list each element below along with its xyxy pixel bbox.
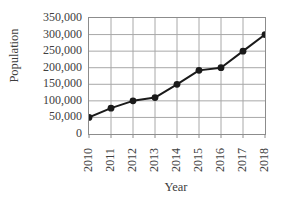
x-tick-label: 2016 — [214, 138, 226, 182]
y-tick-label: 200,000 — [20, 61, 82, 73]
data-point-marker — [89, 114, 92, 121]
data-point-marker — [174, 81, 181, 88]
x-axis-tick-labels: 201020112012201320142015201620172018 — [88, 136, 264, 178]
x-tick-label: 2012 — [126, 138, 138, 182]
y-axis-tick-labels: 350,000300,000250,000200,000150,000100,0… — [20, 11, 82, 138]
y-tick-label: 250,000 — [20, 44, 82, 56]
plot-area — [88, 17, 266, 135]
x-tick-label: 2014 — [170, 138, 182, 182]
data-point-marker — [240, 48, 247, 55]
plot-svg — [89, 18, 265, 134]
x-axis-title: Year — [88, 180, 264, 195]
x-tick-label: 2015 — [192, 138, 204, 182]
y-tick-label: 150,000 — [20, 77, 82, 89]
data-point-marker — [196, 67, 203, 74]
data-point-marker — [218, 64, 225, 71]
population-line-chart: Population 350,000300,000250,000200,0001… — [0, 0, 289, 202]
data-point-marker — [152, 94, 159, 101]
y-tick-label: 100,000 — [20, 94, 82, 106]
x-tick-label: 2010 — [82, 138, 94, 182]
x-tick-label: 2018 — [258, 138, 270, 182]
x-tick-label: 2011 — [104, 138, 116, 182]
y-tick-label: 300,000 — [20, 28, 82, 40]
y-tick-label: 0 — [20, 127, 82, 139]
x-tick-label: 2017 — [236, 138, 248, 182]
y-tick-label: 350,000 — [20, 11, 82, 23]
data-point-marker — [130, 97, 137, 104]
data-point-marker — [108, 105, 115, 112]
x-tick-label: 2013 — [148, 138, 160, 182]
grid-lines — [89, 18, 265, 134]
y-tick-label: 50,000 — [20, 110, 82, 122]
